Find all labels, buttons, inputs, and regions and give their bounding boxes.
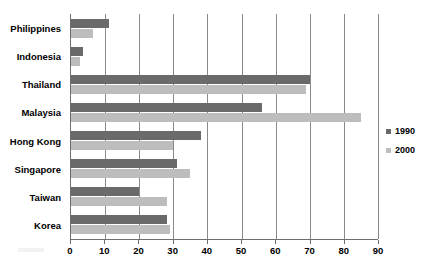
legend: 19902000 (386, 126, 430, 164)
bar-1990-taiwan (71, 187, 139, 196)
x-axis-tick (173, 240, 174, 244)
legend-item-1990[interactable]: 1990 (386, 126, 430, 136)
x-axis-tick (70, 240, 71, 244)
bar-2000-malaysia (71, 113, 361, 122)
legend-swatch-icon (386, 129, 391, 134)
bar-groups (71, 14, 378, 239)
x-axis-tick-label: 60 (270, 245, 281, 256)
bar-group (71, 211, 378, 239)
legend-label: 2000 (395, 145, 415, 155)
bar-1990-indonesia (71, 47, 83, 56)
x-axis-tick-label: 40 (202, 245, 213, 256)
bar-2000-singapore (71, 169, 190, 178)
y-axis-label: Malaysia (0, 99, 66, 127)
bar-1990-hong-kong (71, 131, 201, 140)
y-axis-label: Thailand (0, 71, 66, 99)
x-axis: 0102030405060708090 (70, 240, 378, 262)
bar-group (71, 127, 378, 155)
bar-2000-indonesia (71, 57, 80, 66)
bar-1990-singapore (71, 159, 177, 168)
y-axis-label: Hong Kong (0, 127, 66, 155)
legend-item-2000[interactable]: 2000 (386, 145, 430, 155)
x-axis-tick-label: 70 (304, 245, 315, 256)
bar-group (71, 183, 378, 211)
bar-group (71, 42, 378, 70)
x-axis-tick-label: 80 (338, 245, 349, 256)
bar-chart: PhilippinesIndonesiaThailandMalaysiaHong… (0, 0, 430, 268)
x-axis-tick-label: 30 (167, 245, 178, 256)
gridline (378, 14, 379, 239)
bar-2000-taiwan (71, 197, 167, 206)
y-axis-label: Indonesia (0, 42, 66, 70)
x-axis-tick (104, 240, 105, 244)
bar-1990-thailand (71, 75, 310, 84)
x-axis-tick (378, 240, 379, 244)
cropped-chart-title (90, 0, 420, 9)
bar-2000-philippines (71, 29, 93, 38)
x-axis-tick (241, 240, 242, 244)
x-axis-tick (344, 240, 345, 244)
x-axis-tick-label: 10 (99, 245, 110, 256)
x-axis-tick (310, 240, 311, 244)
x-axis-tick (275, 240, 276, 244)
y-axis-label: Korea (0, 212, 66, 240)
bar-group (71, 14, 378, 42)
bar-1990-philippines (71, 19, 109, 28)
y-axis-label: Singapore (0, 155, 66, 183)
x-axis-tick-label: 90 (373, 245, 384, 256)
x-axis-tick-label: 0 (67, 245, 72, 256)
y-axis-label: Philippines (0, 14, 66, 42)
plot-area (70, 14, 378, 240)
bar-group (71, 70, 378, 98)
x-axis-tick-label: 20 (133, 245, 144, 256)
bar-group (71, 98, 378, 126)
bar-group (71, 155, 378, 183)
bar-1990-korea (71, 215, 167, 224)
x-axis-tick-label: 50 (236, 245, 247, 256)
legend-label: 1990 (395, 126, 415, 136)
y-axis-category-labels: PhilippinesIndonesiaThailandMalaysiaHong… (0, 14, 66, 240)
bar-2000-hong-kong (71, 141, 173, 150)
x-axis-tick (138, 240, 139, 244)
y-axis-label: Taiwan (0, 184, 66, 212)
legend-swatch-icon (386, 148, 391, 153)
x-axis-tick (207, 240, 208, 244)
bar-2000-korea (71, 225, 170, 234)
bar-1990-malaysia (71, 103, 262, 112)
scan-artifact (18, 248, 44, 252)
bar-2000-thailand (71, 85, 306, 94)
